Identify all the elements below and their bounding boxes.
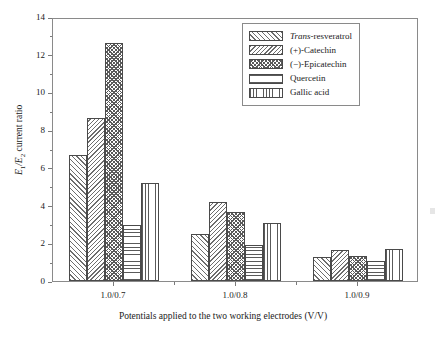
legend-item-5: Gallic acid bbox=[249, 86, 352, 100]
bar-chart-figure: E1/E2 current ratio 02468101214 1.0/0.71… bbox=[0, 0, 446, 348]
plot-area bbox=[52, 18, 418, 282]
bar-1-0-0-8-series-5 bbox=[263, 223, 281, 281]
bar-1-0-0-7-series-4 bbox=[123, 225, 141, 281]
x-tick-label: 1.0/0.7 bbox=[100, 289, 125, 302]
bar-1-0-0-9-series-5 bbox=[385, 249, 403, 281]
bar-1-0-0-9-series-2 bbox=[331, 250, 349, 281]
legend-label-italic-part: Trans bbox=[290, 31, 311, 41]
legend-item-2: (+)-Catechin bbox=[249, 43, 352, 57]
legend-label: (−)-Epicatechin bbox=[290, 59, 347, 70]
legend-label-text: -resveratrol bbox=[311, 31, 352, 41]
x-axis-minor-tick bbox=[174, 282, 175, 285]
y-tick-label: 8 bbox=[41, 124, 46, 137]
x-tick-mark bbox=[113, 282, 114, 286]
bar-1-0-0-9-series-3 bbox=[349, 256, 367, 281]
bar-1-0-0-7-series-1 bbox=[69, 155, 87, 281]
legend-label: (+)-Catechin bbox=[290, 45, 336, 56]
x-axis-title: Potentials applied to the two working el… bbox=[0, 310, 446, 323]
legend-item-4: Quercetin bbox=[249, 72, 352, 86]
y-tick-label: 0 bbox=[41, 275, 46, 288]
x-tick-label: 1.0/0.8 bbox=[222, 289, 247, 302]
bar-1-0-0-7-series-3 bbox=[105, 43, 123, 281]
legend-label-text: Quercetin bbox=[290, 73, 325, 83]
bar-1-0-0-8-series-2 bbox=[209, 202, 227, 281]
y-axis-ticks: 02468101214 bbox=[0, 0, 52, 348]
legend: Trans-resveratrol(+)-Catechin(−)-Epicate… bbox=[242, 23, 360, 106]
legend-swatch-icon bbox=[249, 31, 283, 41]
legend-swatch-icon bbox=[249, 74, 283, 84]
legend-label: Quercetin bbox=[290, 73, 325, 84]
bar-1-0-0-9-series-4 bbox=[367, 261, 385, 281]
bar-1-0-0-7-series-5 bbox=[141, 183, 159, 281]
legend-label: Gallic acid bbox=[290, 87, 329, 98]
y-tick-label: 6 bbox=[41, 162, 46, 175]
y-tick-label: 14 bbox=[36, 11, 45, 24]
legend-swatch-icon bbox=[249, 88, 283, 98]
legend-swatch-icon bbox=[249, 45, 283, 55]
scan-artifact bbox=[430, 208, 435, 214]
legend-label: Trans-resveratrol bbox=[290, 31, 352, 42]
legend-label-text: (+)-Catechin bbox=[290, 45, 336, 55]
x-tick-label: 1.0/0.9 bbox=[344, 289, 369, 302]
legend-item-1: Trans-resveratrol bbox=[249, 29, 352, 43]
y-tick-label: 4 bbox=[41, 200, 46, 213]
x-tick-mark bbox=[357, 282, 358, 286]
legend-item-3: (−)-Epicatechin bbox=[249, 57, 352, 71]
legend-swatch-icon bbox=[249, 59, 283, 69]
bar-1-0-0-7-series-2 bbox=[87, 118, 105, 281]
legend-label-text: Gallic acid bbox=[290, 87, 329, 97]
bar-1-0-0-8-series-1 bbox=[191, 234, 209, 281]
y-tick-label: 2 bbox=[41, 237, 46, 250]
y-tick-label: 10 bbox=[36, 86, 45, 99]
legend-label-text: (−)-Epicatechin bbox=[290, 59, 347, 69]
bar-1-0-0-8-series-4 bbox=[245, 245, 263, 281]
y-tick-label: 12 bbox=[36, 49, 45, 62]
x-tick-mark bbox=[235, 282, 236, 286]
x-axis-minor-tick bbox=[296, 282, 297, 285]
bar-1-0-0-9-series-1 bbox=[313, 257, 331, 281]
bar-1-0-0-8-series-3 bbox=[227, 212, 245, 281]
